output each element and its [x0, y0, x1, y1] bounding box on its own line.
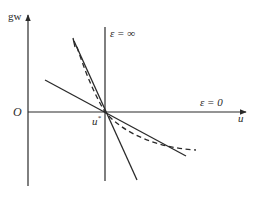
shallow-line: [45, 80, 186, 156]
epsilon-zero-label: ε = 0: [200, 97, 223, 108]
epsilon-infinity-label: ε = ∞: [110, 28, 135, 39]
dashed-curve: [77, 47, 196, 150]
diagram: gw O u* ε = ∞ ε = 0 u: [0, 0, 254, 197]
origin-label: O: [13, 106, 22, 118]
x-axis-label: u: [238, 113, 244, 124]
point-superscript: *: [98, 114, 102, 122]
equilibrium-point-label: u*: [92, 115, 101, 127]
y-axis-label: gw: [8, 11, 21, 22]
